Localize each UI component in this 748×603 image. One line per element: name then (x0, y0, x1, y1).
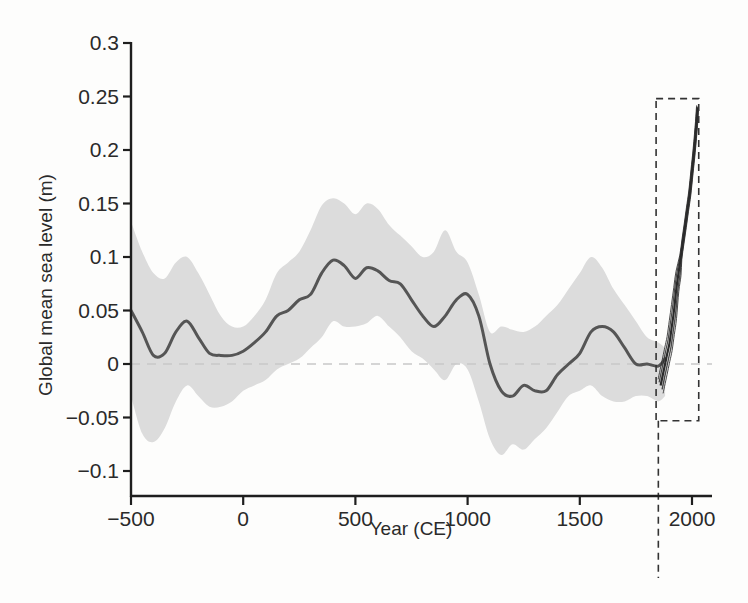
instrumental-record-lines (658, 105, 699, 393)
y-axis-title: Global mean sea level (m) (35, 174, 56, 396)
sea-level-chart: 0.30.250.20.150.10.050−0.05−0.1−50005001… (0, 0, 748, 603)
instrumental-trace (659, 106, 697, 382)
y-tick-label: 0.2 (90, 138, 119, 161)
x-tick-label: 500 (338, 507, 373, 530)
y-tick-label: 0.3 (90, 31, 119, 54)
y-tick-label: 0.25 (78, 85, 119, 108)
x-tick-label: −500 (107, 507, 154, 530)
x-tick-label: 1500 (556, 507, 603, 530)
y-tick-label: 0.15 (78, 192, 119, 215)
y-tick-label: 0.1 (90, 245, 119, 268)
x-tick-label: 2000 (669, 507, 716, 530)
uncertainty-band-area (131, 198, 665, 455)
x-axis-title: Year (CE) (370, 518, 453, 539)
y-tick-label: 0 (107, 352, 119, 375)
uncertainty-band (131, 198, 665, 455)
y-tick-label: 0.05 (78, 299, 119, 322)
instrumental-trace (661, 107, 698, 385)
y-tick-label: −0.05 (66, 406, 119, 429)
instrumental-trace (658, 105, 697, 379)
y-tick-label: −0.1 (78, 459, 119, 482)
x-tick-label: 0 (237, 507, 249, 530)
